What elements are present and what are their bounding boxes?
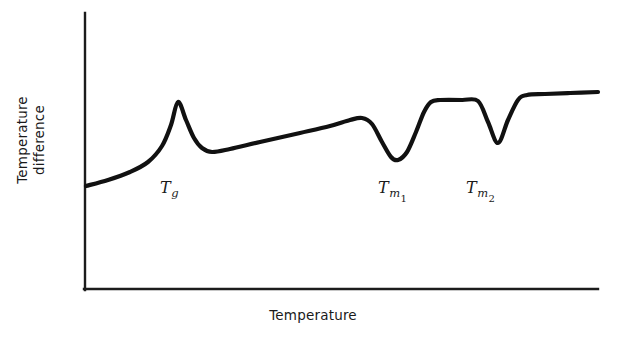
plot-canvas: [0, 0, 626, 347]
dta-thermogram-figure: Temperature difference Temperature Tg Tm…: [0, 0, 626, 347]
annotation-tm2: Tm2: [466, 178, 495, 204]
y-axis-title: Temperature difference: [8, 60, 54, 220]
annotation-tg: Tg: [160, 178, 179, 200]
annotation-tm1-subscript-index: 1: [400, 193, 407, 204]
annotation-tm2-subscript-index: 2: [488, 193, 495, 204]
annotation-tm2-subscript: m: [477, 186, 488, 200]
dta-curve: [86, 92, 598, 186]
annotation-tm1-symbol: T: [378, 178, 389, 197]
annotation-tg-symbol: T: [160, 178, 171, 197]
annotation-tm1: Tm1: [378, 178, 407, 204]
y-axis-title-line1: Temperature: [14, 96, 31, 184]
annotation-tg-subscript: g: [171, 186, 179, 200]
annotation-tm1-subscript: m: [389, 186, 400, 200]
annotation-tm2-symbol: T: [466, 178, 477, 197]
x-axis-title: Temperature: [0, 307, 626, 323]
y-axis-title-line2: difference: [31, 96, 48, 184]
